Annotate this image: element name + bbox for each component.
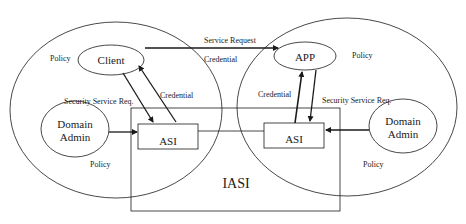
left-admin-label-line2: Admin xyxy=(60,131,91,143)
app-label: APP xyxy=(295,51,315,63)
right-policy-top: Policy xyxy=(352,51,372,60)
iasi-label: IASI xyxy=(222,176,250,191)
diagram-svg: Client APP Domain Admin Domain Admin ASI… xyxy=(0,0,466,224)
right-admin-label-line2: Admin xyxy=(388,128,419,140)
right-policy-bottom: Policy xyxy=(363,160,383,169)
left-policy-bottom: Policy xyxy=(90,160,110,169)
right-security-request-label: Security Service Req. xyxy=(322,96,392,105)
left-policy-top: Policy xyxy=(50,54,70,63)
left-security-request-label: Security Service Req. xyxy=(64,97,134,106)
left-credential-label: Credential xyxy=(160,91,194,100)
left-admin-label-line1: Domain xyxy=(57,118,93,130)
right-security-request-arrow xyxy=(310,70,316,121)
right-credential-label: Credential xyxy=(258,90,292,99)
shared-credential-label: Credential xyxy=(204,55,238,64)
service-request-label: Service Request xyxy=(204,36,257,45)
client-label: Client xyxy=(98,54,125,66)
left-asi-label: ASI xyxy=(159,135,177,147)
right-admin-label-line1: Domain xyxy=(385,115,421,127)
right-credential-arrow xyxy=(295,72,302,123)
right-asi-label: ASI xyxy=(285,133,303,145)
diagram-canvas: Client APP Domain Admin Domain Admin ASI… xyxy=(0,0,466,224)
